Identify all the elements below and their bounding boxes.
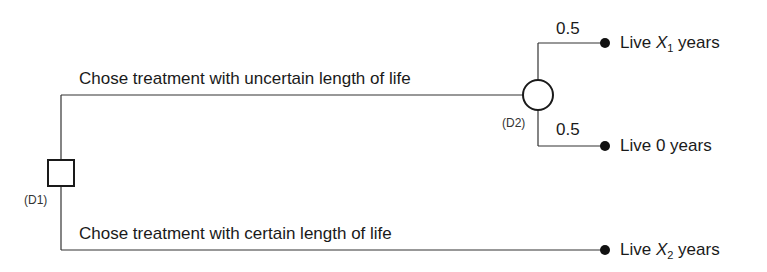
probability-top: 0.5 — [556, 19, 580, 39]
outcome-live-x1: Live X1 years — [620, 33, 720, 54]
chance-node-id-label: (D2) — [502, 116, 525, 130]
outcome-variable: X — [656, 240, 667, 259]
outcome-prefix: Live — [620, 240, 656, 259]
outcome-suffix: years — [673, 240, 719, 259]
outcome-suffix: years — [673, 33, 719, 52]
outcome-live-x2: Live X2 years — [620, 240, 720, 261]
outcome-prefix: Live — [620, 33, 656, 52]
terminal-node-zero — [600, 141, 610, 151]
terminal-node-x2 — [600, 245, 610, 255]
outcome-live-zero: Live 0 years — [620, 136, 712, 156]
chance-node-d2 — [523, 80, 553, 110]
probability-bottom: 0.5 — [556, 120, 580, 140]
decision-node-d1 — [48, 160, 74, 186]
decision-node-id-label: (D1) — [24, 193, 47, 207]
outcome-variable: X — [656, 33, 667, 52]
certain-branch-label: Chose treatment with certain length of l… — [79, 224, 392, 244]
terminal-node-x1 — [600, 38, 610, 48]
uncertain-branch-label: Chose treatment with uncertain length of… — [79, 69, 411, 89]
